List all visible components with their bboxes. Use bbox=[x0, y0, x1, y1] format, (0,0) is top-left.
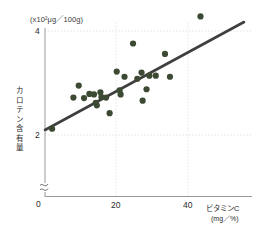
data-point bbox=[162, 51, 168, 57]
data-point bbox=[121, 74, 127, 80]
chart-figure: (x10²μg／100g) カロテン含有量 4 2 0 20 40 ビタミンC … bbox=[0, 0, 260, 251]
data-point bbox=[76, 83, 82, 89]
data-point bbox=[138, 70, 144, 76]
data-point bbox=[130, 40, 136, 46]
plot-area bbox=[0, 0, 260, 251]
data-point bbox=[140, 98, 146, 104]
data-point bbox=[153, 73, 159, 79]
data-point bbox=[49, 126, 55, 132]
trendline bbox=[45, 22, 244, 130]
data-point bbox=[107, 110, 113, 116]
data-point bbox=[114, 68, 120, 74]
y-axis-break-icon bbox=[40, 189, 48, 191]
data-point bbox=[81, 95, 87, 101]
data-point bbox=[143, 86, 149, 92]
data-point bbox=[70, 94, 76, 100]
data-point bbox=[94, 102, 100, 108]
axis-lines bbox=[40, 28, 252, 197]
data-point bbox=[91, 91, 97, 97]
data-point bbox=[197, 13, 203, 19]
data-point bbox=[167, 74, 173, 80]
data-point bbox=[134, 76, 140, 82]
data-point bbox=[118, 91, 124, 97]
data-point bbox=[146, 73, 152, 79]
y-axis-break-icon-second bbox=[40, 184, 48, 186]
gridlines bbox=[45, 22, 252, 196]
data-point bbox=[103, 94, 109, 100]
